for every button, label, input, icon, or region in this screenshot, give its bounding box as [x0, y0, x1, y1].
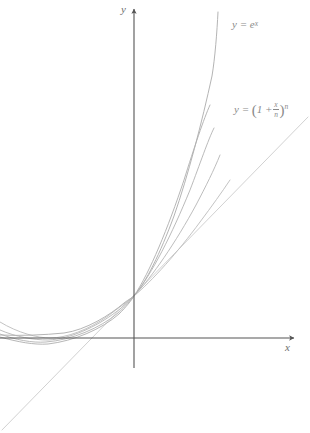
annotation-limit-family: y = (1 + x n )n [234, 101, 288, 118]
curve-exponential [0, 12, 218, 335]
annotation-limit-exponent: n [285, 103, 289, 111]
annotation-limit-one: 1 + [257, 104, 273, 115]
x-axis-label: x [285, 342, 290, 353]
annotation-limit-denominator: n [273, 110, 279, 118]
curve-n3 [0, 155, 220, 340]
annotation-limit-open-paren: ( [252, 104, 257, 117]
annotation-exponential: y = ex [232, 18, 258, 30]
curve-n10 [0, 105, 210, 344]
annotation-exponential-lhs: y = [232, 19, 247, 30]
figure-container: y = ex y = (1 + x n )n y x [0, 0, 310, 433]
y-axis-label: y [121, 4, 126, 15]
annotation-limit-lhs: y = [234, 104, 249, 115]
annotation-limit-numerator: x [273, 101, 278, 109]
curve-n5 [0, 128, 214, 342]
annotation-limit-fraction: x n [273, 101, 279, 118]
annotation-exponential-exponent: x [255, 20, 258, 28]
plot-canvas [0, 0, 310, 433]
curve-n1 [2, 117, 308, 430]
